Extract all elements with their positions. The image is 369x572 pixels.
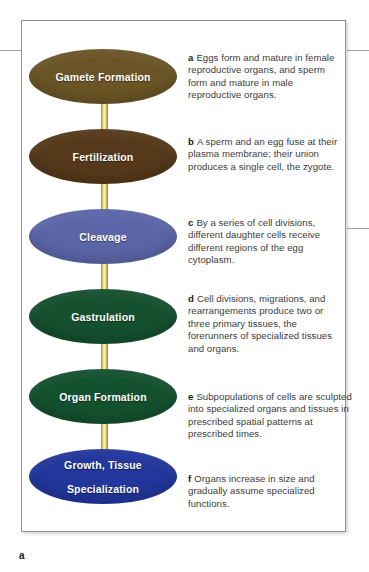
caption-text: A sperm and an egg fuse at their plasma … [188, 136, 337, 172]
crop-mark-left-top [0, 50, 22, 51]
caption-marker: a [188, 52, 193, 63]
stage-caption-a: aEggs form and mature in female reproduc… [188, 52, 344, 102]
caption-text: Subpopulations of cells are sculpted int… [188, 391, 352, 439]
stage-node-label: Organ Formation [51, 391, 154, 403]
stage-node-label: Cleavage [71, 231, 134, 243]
caption-marker: d [188, 293, 194, 304]
caption-marker: f [188, 473, 191, 484]
figure-frame: Gamete Formation Fertilization Cleavage … [21, 20, 346, 532]
stage-node-fertilization: Fertilization [29, 129, 177, 184]
caption-text: Organs increase in size and gradually as… [188, 473, 315, 509]
stage-node-gamete-formation: Gamete Formation [29, 49, 177, 104]
development-flowchart: Gamete Formation Fertilization Cleavage … [22, 21, 345, 531]
stage-node-label: Gastrulation [63, 311, 143, 323]
caption-text: Cell divisions, migrations, and rearrang… [188, 293, 332, 354]
caption-marker: e [188, 391, 193, 402]
stage-node-label: Fertilization [65, 151, 142, 163]
stage-node-organ-formation: Organ Formation [29, 369, 177, 424]
stage-caption-c: cBy a series of cell divisions, differen… [188, 217, 344, 267]
figure-part-label: a [19, 550, 25, 561]
caption-text: Eggs form and mature in female reproduct… [188, 52, 334, 100]
caption-marker: b [188, 136, 194, 147]
stage-node-cleavage: Cleavage [29, 209, 177, 264]
stage-node-label: Gamete Formation [47, 71, 158, 83]
stage-node-label-line1: Growth, Tissue [56, 459, 150, 471]
stage-caption-b: bA sperm and an egg fuse at their plasma… [188, 136, 344, 173]
stage-caption-d: dCell divisions, migrations, and rearran… [188, 293, 344, 355]
stage-node-label: Growth, Tissue Specialization [48, 459, 158, 495]
stage-node-gastrulation: Gastrulation [29, 289, 177, 344]
stage-node-label-line2: Specialization [56, 483, 150, 495]
caption-marker: c [188, 217, 193, 228]
crop-mark-right-top [347, 50, 369, 51]
caption-text: By a series of cell divisions, different… [188, 217, 320, 265]
stage-caption-f: fOrgans increase in size and gradually a… [188, 473, 354, 510]
crop-mark-right-middle [347, 228, 369, 229]
stage-node-growth-tissue-specialization: Growth, Tissue Specialization [29, 449, 177, 504]
stage-caption-e: eSubpopulations of cells are sculpted in… [188, 391, 354, 441]
